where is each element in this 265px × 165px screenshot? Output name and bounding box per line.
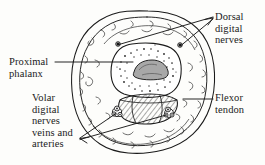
- label-volar-digital-nerves-veins-arteries: Volar digital nerves veins and arteries: [32, 92, 73, 150]
- finger-cross-section-figure: Dorsal digital nerves Proximal phalanx V…: [0, 0, 265, 165]
- leader-dorsal-arrow: [205, 18, 213, 25]
- label-dorsal-digital-nerves: Dorsal digital nerves: [215, 11, 244, 46]
- label-proximal-phalanx: Proximal phalanx: [9, 56, 48, 79]
- label-flexor-tendon: Flexor tendon: [215, 92, 244, 115]
- leader-volar-arrow: [80, 137, 89, 143]
